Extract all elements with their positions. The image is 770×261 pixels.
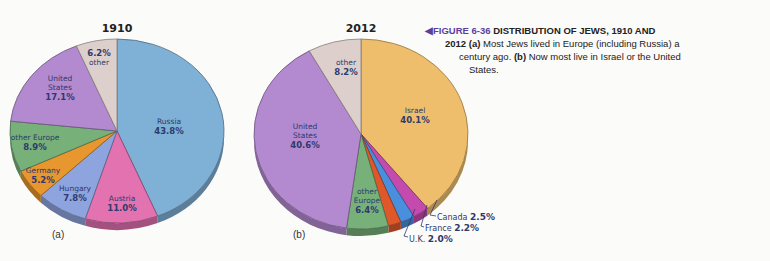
- callout-france-2012: France 2.2%: [425, 223, 479, 233]
- pie-b-panel-label: (b): [293, 229, 305, 240]
- slice-label-other-1910: 6.2% other: [87, 48, 111, 67]
- callout-canada-2012: Canada 2.5%: [437, 212, 495, 222]
- caption-heading: DISTRIBUTION OF JEWS, 1910 AND: [493, 25, 655, 36]
- slice-label-germany-1910: Germany 5.2%: [26, 166, 60, 185]
- slice-label-other-2012: other 8.2%: [334, 58, 358, 77]
- caption-line-3: century ago. (b) Now most live in Israel…: [425, 50, 755, 63]
- callout-uk-2012: U.K. 2.0%: [409, 234, 453, 244]
- caption-line-1: ◀FIGURE 6-36 DISTRIBUTION OF JEWS, 1910 …: [425, 24, 755, 37]
- caption-arrow-icon: ◀: [425, 25, 433, 36]
- slice-label-hungary-1910: Hungary 7.8%: [59, 184, 91, 203]
- slice-label-united-states-1910: United States 17.1%: [45, 74, 75, 102]
- pie-a-panel-label: (a): [52, 229, 64, 240]
- caption-line-2: 2012 (a) Most Jews lived in Europe (incl…: [425, 37, 755, 50]
- slice-label-other-europe-2012: other Europe 6.4%: [354, 187, 380, 215]
- slice-label-other-europe-1910: other Europe 8.9%: [11, 133, 60, 152]
- slice-label-israel-2012: Israel 40.1%: [400, 106, 430, 125]
- figure-caption: ◀FIGURE 6-36 DISTRIBUTION OF JEWS, 1910 …: [425, 24, 755, 76]
- pie-a-title: 1910: [102, 22, 133, 35]
- figure-number: FIGURE 6-36: [433, 25, 491, 36]
- slice-label-austria-1910: Austria 11.0%: [107, 194, 137, 213]
- pie-b-title: 2012: [346, 22, 377, 35]
- slice-label-united-states-2012: United States 40.6%: [290, 122, 320, 150]
- figure: 1910 (a) Russia 43.8% Austria 11.0% Hung…: [0, 0, 770, 261]
- slice-label-russia-1910: Russia 43.8%: [154, 117, 184, 136]
- caption-line-4: States.: [425, 63, 755, 76]
